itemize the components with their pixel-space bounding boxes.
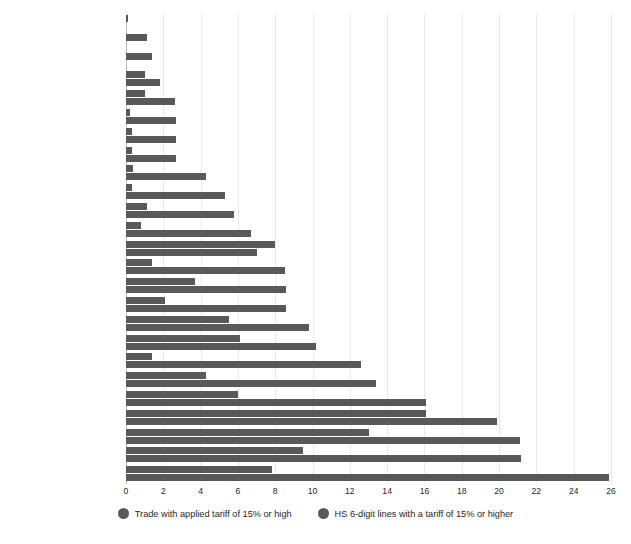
x-tick-label: 8 (273, 486, 278, 496)
bar-hs-lines (126, 136, 176, 143)
bar-hs-lines (126, 155, 176, 162)
bar-row: Motor vehicles (126, 316, 611, 333)
bar-row: Food products (126, 466, 611, 483)
bar-applied-tariff (126, 15, 128, 22)
bar-applied-tariff (126, 297, 165, 304)
bar-hs-lines (126, 474, 609, 481)
bar-row: Tanning (126, 410, 611, 427)
bar-applied-tariff (126, 316, 229, 323)
bar-hs-lines (126, 286, 286, 293)
bar-row: Metal products (126, 297, 611, 314)
bar-row: Office machineries (126, 53, 611, 70)
legend-label: HS 6-digit lines with a tariff of 15% or… (335, 509, 514, 519)
x-tick-label: 14 (382, 486, 392, 496)
bar-row: Rubber/plastics (126, 259, 611, 276)
bar-row: Oil, gas, coal (126, 15, 611, 32)
bar-hs-lines (126, 380, 376, 387)
bar-hs-lines (126, 173, 206, 180)
bar-row: Chemicals (126, 128, 611, 145)
x-tick-label: 22 (532, 486, 542, 496)
x-tick-label: 0 (124, 486, 129, 496)
bar-row: Petroleum products (126, 71, 611, 88)
bar-hs-lines (126, 98, 175, 105)
x-tick-label: 12 (345, 486, 355, 496)
legend-marker-circle-icon (118, 508, 129, 519)
bar-hs-lines (126, 79, 160, 86)
bar-row: Basic metals (126, 109, 611, 126)
bar-hs-lines (126, 305, 286, 312)
bar-row: Transport equipment (126, 165, 611, 182)
bar-hs-lines (126, 324, 309, 331)
bar-applied-tariff (126, 184, 132, 191)
x-tick-label: 2 (161, 486, 166, 496)
x-tick-label: 16 (420, 486, 430, 496)
bar-chart: Oil, gas, coalMining and metal oresOffic… (0, 0, 631, 544)
bar-row: Wood products (126, 353, 611, 370)
bar-applied-tariff (126, 410, 426, 417)
bar-applied-tariff (126, 71, 145, 78)
bar-row: Non-metallic minerals (126, 278, 611, 295)
bar-row: Communication equipment (126, 184, 611, 201)
bar-applied-tariff (126, 128, 132, 135)
x-tick-label: 10 (308, 486, 318, 496)
x-tick-label: 18 (457, 486, 467, 496)
bar-hs-lines (126, 192, 225, 199)
plot-area: Oil, gas, coalMining and metal oresOffic… (126, 14, 611, 484)
legend-label: Trade with applied tariff of 15% or high (135, 509, 292, 519)
bar-hs-lines (126, 211, 234, 218)
x-axis: 02468101214161820222426 (126, 484, 611, 502)
bar-hs-lines (126, 399, 426, 406)
legend-marker-circle-icon (318, 508, 329, 519)
bar-row: Precision instruments (126, 147, 611, 164)
bar-hs-lines (126, 361, 361, 368)
bar-applied-tariff (126, 391, 238, 398)
bar-row: Electrical machinery (126, 203, 611, 220)
x-tick-label: 24 (569, 486, 579, 496)
bar-row: Textiles (126, 335, 611, 352)
bar-hs-lines (126, 117, 176, 124)
bar-applied-tariff (126, 259, 152, 266)
bar-row: Animal products (126, 429, 611, 446)
bar-hs-lines (126, 249, 257, 256)
x-tick-label: 20 (494, 486, 504, 496)
x-tick-label: 6 (236, 486, 241, 496)
bar-hs-lines (126, 455, 521, 462)
bar-applied-tariff (126, 222, 141, 229)
bar-row: Oils and fats (126, 372, 611, 389)
bar-applied-tariff (126, 466, 272, 473)
bar-applied-tariff (126, 335, 240, 342)
bar-row: Paper products (126, 222, 611, 239)
bar-row: Tobacco, beverages (126, 241, 611, 258)
bar-applied-tariff (126, 53, 152, 60)
bar-row: Vegetable products (126, 391, 611, 408)
bar-hs-lines (126, 343, 316, 350)
bar-applied-tariff (126, 447, 303, 454)
bar-applied-tariff (126, 429, 369, 436)
legend-item[interactable]: HS 6-digit lines with a tariff of 15% or… (318, 508, 514, 519)
bar-hs-lines (126, 437, 520, 444)
bar-hs-lines (126, 267, 285, 274)
bar-hs-lines (126, 230, 251, 237)
x-tick-label: 4 (198, 486, 203, 496)
bar-applied-tariff (126, 203, 147, 210)
gridline (611, 14, 612, 484)
bar-row: Mining and metal ores (126, 34, 611, 51)
bar-applied-tariff (126, 34, 147, 41)
bar-applied-tariff (126, 147, 132, 154)
bar-row: Apparel (126, 447, 611, 464)
bar-applied-tariff (126, 90, 145, 97)
bar-applied-tariff (126, 372, 206, 379)
chart-legend: Trade with applied tariff of 15% or high… (0, 508, 631, 519)
legend-item[interactable]: Trade with applied tariff of 15% or high (118, 508, 292, 519)
bar-hs-lines (126, 418, 497, 425)
bar-applied-tariff (126, 278, 195, 285)
x-tick-label: 26 (606, 486, 616, 496)
bar-applied-tariff (126, 353, 152, 360)
bar-row: Machinery various (126, 90, 611, 107)
bar-applied-tariff (126, 165, 133, 172)
bar-applied-tariff (126, 241, 275, 248)
bar-applied-tariff (126, 109, 130, 116)
